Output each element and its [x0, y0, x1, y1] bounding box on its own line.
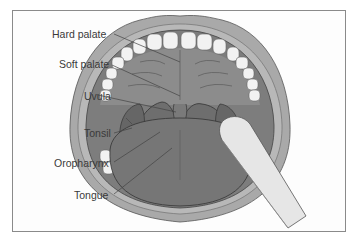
label-tonsil: Tonsil	[84, 127, 111, 139]
label-oropharynx: Oropharynx	[54, 157, 109, 169]
label-tongue: Tongue	[74, 189, 108, 201]
label-hard-palate: Hard palate	[52, 28, 106, 40]
label-soft-palate: Soft palate	[59, 58, 109, 70]
label-uvula: Uvula	[84, 90, 111, 102]
